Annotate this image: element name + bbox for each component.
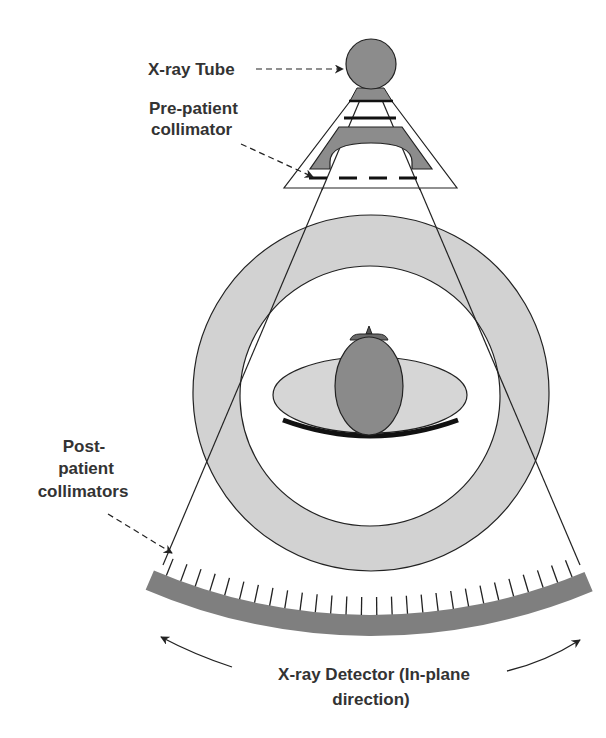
direction-arrow-right <box>507 640 580 671</box>
collimator-blade <box>465 589 468 607</box>
collimator-blade <box>346 596 347 614</box>
label-pre-patient-collimator-line2: collimator <box>151 120 233 139</box>
collimator-blade <box>285 590 288 608</box>
collimator-blade <box>451 591 454 609</box>
collimator-blade <box>436 593 438 611</box>
collimator-blade <box>166 559 173 576</box>
x-ray-tube <box>346 39 396 89</box>
collimator-blade <box>195 569 201 586</box>
collimator-blade <box>421 595 423 613</box>
collimator-blade <box>331 596 332 614</box>
collimator-blade <box>391 597 392 615</box>
pre-patient-collimator <box>284 100 457 190</box>
collimator-blade <box>480 586 484 604</box>
label-post-patient-line2: patient <box>58 459 114 478</box>
label-xray-tube: X-ray Tube <box>148 60 235 79</box>
label-pre-patient-collimator-line1: Pre-patient <box>149 99 238 118</box>
collimator-blade <box>315 594 317 612</box>
collimator-blade <box>552 565 558 582</box>
label-post-patient-line3: collimators <box>38 482 129 501</box>
collimator-blade <box>509 579 514 596</box>
collimator-blade <box>300 593 302 611</box>
label-detector-line2: direction) <box>332 690 409 709</box>
collimator-blade <box>270 588 273 606</box>
collimator-blade <box>495 582 499 600</box>
collimator-blade <box>210 574 215 591</box>
label-detector-line1: X-ray Detector (In-plane <box>278 665 470 684</box>
collimator-blade <box>537 570 543 587</box>
collimator-blade <box>406 596 407 614</box>
collimator-blade <box>255 585 259 603</box>
collimator-blade <box>523 575 528 592</box>
ct-geometry-diagram: X-ray Tube Pre-patient collimator Post- … <box>0 0 606 738</box>
collimator-blade <box>225 578 230 595</box>
post-patient-arrow <box>108 514 172 553</box>
tube-housing-neck <box>350 88 392 101</box>
patient-head <box>335 326 403 435</box>
label-post-patient-line1: Post- <box>63 437 106 456</box>
direction-arrow-left <box>161 637 232 667</box>
collimator-blade <box>565 560 572 577</box>
collimator-blade <box>240 582 244 599</box>
collimator-blade <box>181 564 187 581</box>
